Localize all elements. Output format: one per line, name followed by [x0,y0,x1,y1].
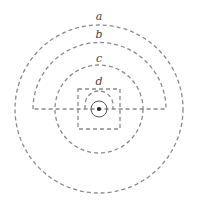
small-arc [85,91,113,109]
label-c: c [96,52,102,65]
label-d: d [95,75,102,88]
center-dot [97,107,101,111]
diagram-canvas: a b c d [0,0,201,205]
label-a: a [96,10,103,23]
label-b: b [95,28,102,41]
